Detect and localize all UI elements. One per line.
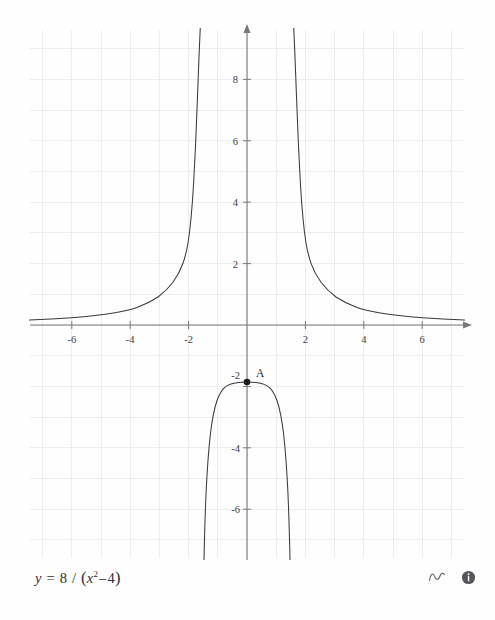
point-a-label: A <box>256 367 265 379</box>
x-tick-label: 6 <box>420 334 425 345</box>
y-tick-label: 4 <box>233 197 239 208</box>
equation-equals: = <box>45 570 55 586</box>
x-tick-label: -2 <box>184 334 193 345</box>
footer-bar: y = 8 / (x2–4) <box>0 558 495 620</box>
equation-lhs: y <box>35 570 42 586</box>
y-tick-label: 2 <box>233 259 238 270</box>
info-icon[interactable] <box>459 568 477 586</box>
equation-slash: / <box>71 570 77 586</box>
equation-numerator: 8 <box>60 570 67 586</box>
graph-canvas[interactable]: -6 -4 -2 2 4 6 8 6 4 2 -2 -4 -6 <box>0 0 495 575</box>
x-tick-label: 4 <box>361 334 367 345</box>
x-tick-label: -6 <box>67 334 76 345</box>
point-a-marker[interactable] <box>244 379 251 386</box>
x-tick-label: -4 <box>126 334 135 345</box>
graph-svg: -6 -4 -2 2 4 6 8 6 4 2 -2 -4 -6 <box>0 0 495 575</box>
footer-tools <box>428 568 477 586</box>
equation-close-paren: ) <box>115 568 121 587</box>
y-tick-label: -4 <box>231 443 240 454</box>
equation-constant: 4 <box>108 570 115 586</box>
wave-icon[interactable] <box>428 568 446 586</box>
y-tick-label: -6 <box>231 504 240 515</box>
y-tick-label: 8 <box>233 74 238 85</box>
equation-label[interactable]: y = 8 / (x2–4) <box>35 568 121 588</box>
x-tick-label: 2 <box>303 334 308 345</box>
y-tick-label: 6 <box>233 136 238 147</box>
equation-minus: – <box>98 570 107 586</box>
page-root: -6 -4 -2 2 4 6 8 6 4 2 -2 -4 -6 <box>0 0 495 620</box>
